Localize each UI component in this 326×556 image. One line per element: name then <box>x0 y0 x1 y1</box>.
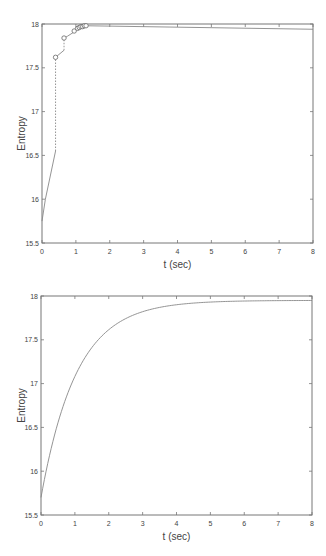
plot-frame <box>42 24 313 243</box>
y-axis-label: Entropy <box>16 116 27 150</box>
x-tick-label: 2 <box>107 520 111 527</box>
x-tick-label: 8 <box>311 248 315 255</box>
data-marker <box>84 24 88 28</box>
series-line-segment <box>45 151 55 199</box>
chart-top-plot: 01234567815.51616.51717.518t (sec)Entrop… <box>0 0 326 278</box>
x-tick-label: 5 <box>208 520 212 527</box>
x-tick-label: 6 <box>242 520 246 527</box>
x-tick-label: 7 <box>277 248 281 255</box>
y-tick-label: 17.5 <box>24 336 38 343</box>
x-axis-label: t (sec) <box>164 259 192 270</box>
x-axis-label: t (sec) <box>163 531 191 542</box>
x-tick-label: 1 <box>73 520 77 527</box>
x-tick-label: 6 <box>243 248 247 255</box>
y-tick-label: 16.5 <box>25 152 39 159</box>
y-tick-label: 16 <box>30 468 38 475</box>
x-tick-label: 3 <box>141 520 145 527</box>
y-tick-label: 17 <box>31 108 39 115</box>
y-tick-label: 18 <box>31 21 39 28</box>
y-axis-label: Entropy <box>16 388 27 422</box>
chart-bottom: 01234567815.51616.51717.518t (sec)Entrop… <box>0 272 326 550</box>
chart-bottom-plot: 01234567815.51616.51717.518t (sec)Entrop… <box>0 272 326 550</box>
data-marker <box>62 36 66 40</box>
x-tick-label: 1 <box>74 248 78 255</box>
x-tick-label: 0 <box>40 248 44 255</box>
x-tick-label: 2 <box>108 248 112 255</box>
series-line-segment <box>42 199 45 221</box>
y-tick-label: 15.5 <box>24 512 38 519</box>
y-tick-label: 16.5 <box>24 424 38 431</box>
x-tick-label: 4 <box>175 520 179 527</box>
data-marker <box>53 55 57 59</box>
x-tick-label: 3 <box>142 248 146 255</box>
chart-top: 01234567815.51616.51717.518t (sec)Entrop… <box>0 0 326 278</box>
y-tick-label: 16 <box>31 196 39 203</box>
y-tick-label: 18 <box>30 293 38 300</box>
x-tick-label: 0 <box>39 520 43 527</box>
series-line <box>41 300 312 497</box>
y-tick-label: 17 <box>30 380 38 387</box>
x-tick-label: 8 <box>310 520 314 527</box>
x-tick-label: 7 <box>276 520 280 527</box>
y-tick-label: 15.5 <box>25 240 39 247</box>
x-tick-label: 5 <box>209 248 213 255</box>
x-tick-label: 4 <box>176 248 180 255</box>
plot-frame <box>41 296 312 515</box>
y-tick-label: 17.5 <box>25 64 39 71</box>
